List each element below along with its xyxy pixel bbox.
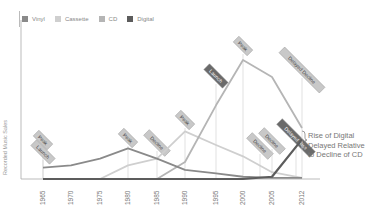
annotation-line-2: Delayed Relative: [308, 141, 365, 151]
annotation-line-3: to Decline of CD: [308, 150, 365, 160]
annotation-tag: Peak: [175, 110, 195, 130]
annotation-tag: Peak: [118, 128, 138, 148]
line-chart: PeakLaunchPeakDeclinePeakLaunchPeakDecli…: [0, 0, 379, 214]
x-tick-label: 2000: [239, 190, 246, 205]
x-tick-label: 1975: [96, 190, 103, 205]
x-tick-label: 1995: [212, 190, 219, 205]
x-tick-label: 1985: [153, 190, 160, 205]
x-tick-label: 1970: [67, 190, 74, 205]
x-tick-label: 1965: [39, 190, 46, 205]
x-tick-label: 1980: [124, 190, 131, 205]
annotation-line-1: Rise of Digital: [308, 131, 365, 141]
series-line-cassette: [43, 131, 302, 179]
series-line-cd: [43, 60, 302, 179]
x-tick-label: 2012: [298, 190, 305, 205]
x-tick-label: 2005: [268, 190, 275, 205]
side-annotation: Rise of Digital Delayed Relative to Decl…: [308, 131, 365, 160]
annotation-tag: Peak: [233, 36, 253, 56]
x-tick-label: 1990: [181, 190, 188, 205]
